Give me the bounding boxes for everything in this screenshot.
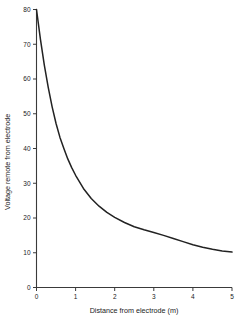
x-axis-group: 012345 Distance from electrode (m) <box>35 288 235 316</box>
y-tick-label: 80 <box>23 6 31 13</box>
y-tick-label: 60 <box>23 75 31 82</box>
y-tick-label: 40 <box>23 145 31 152</box>
chart-container: 01020304050607080 Voltage remote from el… <box>0 0 236 321</box>
y-axis-title: Voltage remote from electrode <box>3 114 12 210</box>
x-tick-label: 2 <box>113 293 117 300</box>
x-tick-label: 5 <box>230 293 234 300</box>
x-tick-label: 3 <box>152 293 156 300</box>
y-tick-label: 30 <box>23 180 31 187</box>
series-group <box>37 10 233 253</box>
x-tick-label: 4 <box>191 293 195 300</box>
x-tick-label: 0 <box>35 293 39 300</box>
x-axis-tick-labels: 012345 <box>35 293 235 300</box>
voltage-distance-line-chart: 01020304050607080 Voltage remote from el… <box>0 0 236 321</box>
y-tick-label: 20 <box>23 214 31 221</box>
y-axis-group: 01020304050607080 Voltage remote from el… <box>3 6 37 291</box>
data-curve-voltage <box>37 10 233 253</box>
y-tick-label: 0 <box>27 284 31 291</box>
x-tick-label: 1 <box>74 293 78 300</box>
y-tick-label: 70 <box>23 41 31 48</box>
x-axis-title: Distance from electrode (m) <box>90 306 179 315</box>
y-tick-label: 10 <box>23 249 31 256</box>
y-tick-label: 50 <box>23 110 31 117</box>
y-axis-tick-labels: 01020304050607080 <box>23 6 31 291</box>
